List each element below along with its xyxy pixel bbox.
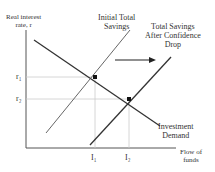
y-axis-label-line2: rate, r	[6, 21, 41, 29]
r2-tick-label: r₂	[16, 94, 21, 103]
r1-tick-label: r₁	[16, 72, 21, 81]
investment-demand-curve	[34, 40, 160, 126]
x-axis-label-line1: Flow of	[180, 148, 202, 156]
initial-savings-line1: Initial Total	[98, 13, 135, 22]
shifted-savings-line2: After Confidence	[145, 31, 201, 40]
investment-demand-line1: Investment	[158, 122, 194, 131]
investment-demand-label: Investment Demand	[158, 122, 194, 140]
y-axis-label: Real interest rate, r	[6, 13, 41, 29]
i2-tick-label: I₂	[125, 153, 130, 162]
arrow-head-icon	[149, 57, 156, 63]
shifted-savings-line3: Drop	[145, 40, 201, 49]
y-axis-label-line1: Real interest	[6, 13, 41, 21]
equilibrium-point-2	[127, 97, 131, 101]
investment-demand-line2: Demand	[158, 131, 194, 140]
x-axis-label-line2: funds	[180, 156, 202, 164]
x-axis-label: Flow of funds	[180, 148, 202, 164]
initial-savings-label: Initial Total Savings	[98, 13, 135, 31]
equilibrium-point-1	[93, 75, 97, 79]
i1-tick-label: I₁	[91, 153, 96, 162]
initial-savings-line2: Savings	[98, 22, 135, 31]
shifted-savings-label: Total Savings After Confidence Drop	[145, 22, 201, 49]
shifted-savings-line1: Total Savings	[145, 22, 201, 31]
initial-savings-curve	[46, 30, 130, 133]
